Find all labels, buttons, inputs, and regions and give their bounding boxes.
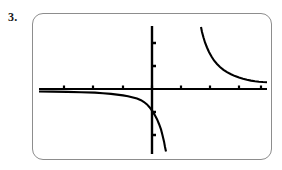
graphing-calculator-screen [32, 13, 272, 160]
page-root: 3. [0, 0, 282, 170]
trace-branch-right [201, 27, 267, 82]
problem-number-label: 3. [8, 11, 18, 23]
graph-plot [33, 14, 272, 160]
trace-branch-left [39, 92, 166, 152]
